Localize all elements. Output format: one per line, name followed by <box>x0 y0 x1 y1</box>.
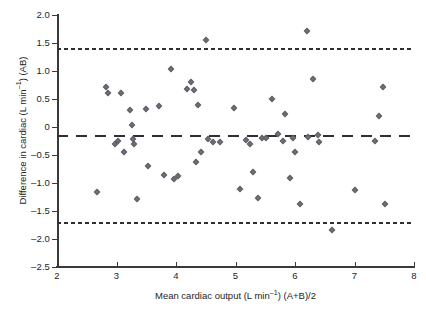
x-tick-label: 5 <box>221 270 251 281</box>
data-point <box>269 95 276 102</box>
data-point <box>202 36 209 43</box>
data-point <box>144 163 151 170</box>
data-point <box>309 76 316 83</box>
data-point <box>156 103 163 110</box>
data-point <box>380 83 387 90</box>
data-point <box>231 104 238 111</box>
data-point <box>197 149 204 156</box>
data-point <box>291 149 298 156</box>
data-point <box>237 185 244 192</box>
data-point <box>351 187 358 194</box>
y-axis-title: Difference in cardiac (L min–1) (AB) <box>17 11 28 251</box>
x-tick-label: 2 <box>42 270 72 281</box>
data-point <box>126 106 133 113</box>
data-point <box>161 171 168 178</box>
data-point <box>255 194 262 201</box>
data-point <box>303 28 310 35</box>
data-point <box>105 89 112 96</box>
data-point <box>216 138 223 145</box>
data-point <box>282 110 289 117</box>
data-point <box>118 90 125 97</box>
reference-line-upper-limit-of-agreement <box>57 48 414 50</box>
data-point <box>143 105 150 112</box>
data-point <box>133 196 140 203</box>
y-tick <box>52 267 57 268</box>
data-point <box>194 102 201 109</box>
data-point <box>128 121 135 128</box>
reference-line-mean-bias <box>57 135 414 137</box>
data-point <box>376 113 383 120</box>
data-point <box>168 65 175 72</box>
x-tick-label: 6 <box>280 270 310 281</box>
x-tick-label: 8 <box>399 270 426 281</box>
x-tick-label: 4 <box>161 270 191 281</box>
data-point <box>280 137 287 144</box>
reference-line-lower-limit-of-agreement <box>57 222 414 224</box>
x-tick-label: 7 <box>340 270 370 281</box>
x-axis-title: Mean cardiac output (L min–1) (A+B)/2 <box>57 290 414 301</box>
plot-area <box>57 15 414 267</box>
data-point <box>382 201 389 208</box>
data-point <box>94 188 101 195</box>
data-point <box>190 86 197 93</box>
data-point <box>371 137 378 144</box>
data-point <box>296 201 303 208</box>
data-point <box>121 149 128 156</box>
data-point <box>188 79 195 86</box>
data-point <box>315 138 322 145</box>
data-point <box>250 168 257 175</box>
data-point <box>246 141 253 148</box>
x-tick-label: 3 <box>102 270 132 281</box>
data-point <box>287 174 294 181</box>
bland-altman-chart: 2.01.51.00.50–0.5–1.0–1.5–2.0–2.5 234567… <box>0 0 426 323</box>
data-point <box>328 226 335 233</box>
data-point <box>131 140 138 147</box>
data-point <box>175 172 182 179</box>
data-point <box>192 158 199 165</box>
x-tick <box>414 262 415 267</box>
